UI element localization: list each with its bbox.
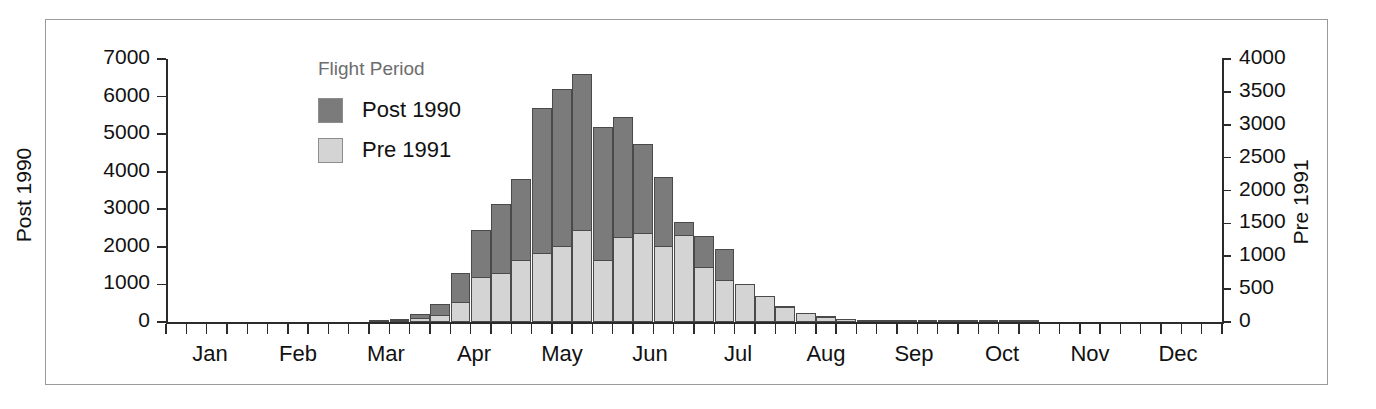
y-tick-left — [157, 133, 166, 135]
x-tick — [1059, 324, 1060, 334]
x-tick — [1120, 324, 1121, 334]
bar-pre1991 — [938, 320, 958, 322]
legend-title: Flight Period — [318, 58, 461, 80]
x-tick — [1201, 324, 1202, 334]
legend-item-post1990: Post 1990 — [318, 97, 461, 123]
x-tick — [307, 324, 308, 334]
x-tick — [1221, 324, 1222, 334]
bar-pre1991 — [816, 317, 836, 322]
x-tick — [632, 324, 633, 334]
bar-pre1991 — [451, 302, 471, 322]
bar-pre1991 — [694, 267, 714, 322]
figure-frame — [45, 19, 1328, 385]
x-tick — [754, 324, 755, 334]
bar-pre1991 — [511, 260, 531, 322]
y-tick-label-right: 3000 — [1239, 111, 1329, 135]
y-tick-right — [1222, 91, 1231, 93]
x-tick — [226, 324, 227, 334]
x-tick — [287, 324, 288, 334]
x-axis-month-label-apr: Apr — [429, 341, 519, 367]
x-axis-month-label-dec: Dec — [1133, 341, 1223, 367]
x-tick — [368, 324, 369, 334]
y-tick-right — [1222, 288, 1231, 290]
legend: Flight Period Post 1990 Pre 1991 — [318, 58, 461, 177]
bar-pre1991 — [552, 246, 572, 322]
x-tick — [1079, 324, 1080, 334]
y-tick-right — [1222, 321, 1231, 323]
bar-pre1991 — [796, 313, 816, 322]
y-axis-left-line — [166, 59, 168, 323]
bar-pre1991 — [674, 235, 694, 322]
x-tick — [511, 324, 512, 334]
x-tick — [835, 324, 836, 334]
x-axis-month-label-oct: Oct — [957, 341, 1047, 367]
y-tick-right — [1222, 255, 1231, 257]
y-tick-left — [157, 246, 166, 248]
y-tick-label-left: 6000 — [38, 83, 150, 107]
y-tick-left — [157, 171, 166, 173]
y-axis-left-title: Post 1990 — [12, 148, 36, 243]
y-tick-left — [157, 96, 166, 98]
x-axis-month-label-sep: Sep — [869, 341, 959, 367]
x-tick — [1099, 324, 1100, 334]
bar-pre1991 — [430, 315, 450, 322]
y-tick-right — [1222, 190, 1231, 192]
bar-post1990 — [1019, 320, 1039, 322]
x-tick — [450, 324, 451, 334]
x-tick — [693, 324, 694, 334]
bar-pre1991 — [897, 320, 917, 322]
x-tick — [409, 324, 410, 334]
x-tick — [815, 324, 816, 334]
y-tick-label-left: 1000 — [38, 270, 150, 294]
bar-pre1991 — [877, 320, 897, 322]
bar-pre1991 — [918, 320, 938, 322]
flight-period-chart: Post 1990 Pre 1991 010002000300040005000… — [0, 0, 1376, 409]
y-tick-left — [157, 321, 166, 323]
x-axis-month-label-mar: Mar — [341, 341, 431, 367]
y-tick-label-left: 7000 — [38, 45, 150, 69]
bar-pre1991 — [979, 320, 999, 322]
y-tick-label-right: 500 — [1239, 275, 1329, 299]
bar-pre1991 — [633, 233, 653, 322]
bar-pre1991 — [836, 319, 856, 322]
legend-label-post1990: Post 1990 — [362, 97, 461, 123]
bar-pre1991 — [471, 277, 491, 322]
x-tick — [734, 324, 735, 334]
x-tick — [531, 324, 532, 334]
x-tick — [957, 324, 958, 334]
bar-pre1991 — [613, 237, 633, 322]
x-tick — [1018, 324, 1019, 334]
legend-swatch-post1990 — [318, 98, 343, 123]
bar-pre1991 — [715, 280, 735, 322]
bar-pre1991 — [572, 230, 592, 322]
x-axis-month-label-may: May — [517, 341, 607, 367]
x-tick — [876, 324, 877, 334]
x-axis-month-label-jul: Jul — [693, 341, 783, 367]
y-tick-label-left: 4000 — [38, 158, 150, 182]
x-tick — [490, 324, 491, 334]
y-tick-label-right: 4000 — [1239, 45, 1329, 69]
y-tick-label-right: 0 — [1239, 308, 1329, 332]
bar-pre1991 — [999, 320, 1019, 322]
x-tick — [429, 324, 430, 334]
x-tick — [267, 324, 268, 334]
x-tick — [328, 324, 329, 334]
x-axis-line — [166, 322, 1224, 324]
x-tick — [470, 324, 471, 334]
y-tick-right — [1222, 58, 1231, 60]
y-tick-right — [1222, 157, 1231, 159]
x-tick — [653, 324, 654, 334]
x-tick — [389, 324, 390, 334]
bar-pre1991 — [654, 246, 674, 322]
x-tick — [165, 324, 166, 334]
x-tick — [571, 324, 572, 334]
legend-swatch-pre1991 — [318, 138, 343, 163]
x-axis-month-label-jun: Jun — [605, 341, 695, 367]
x-tick — [206, 324, 207, 334]
x-tick — [917, 324, 918, 334]
bar-pre1991 — [390, 320, 410, 322]
y-tick-label-right: 1500 — [1239, 209, 1329, 233]
bar-pre1991 — [593, 260, 613, 322]
x-tick — [998, 324, 999, 334]
x-tick — [612, 324, 613, 334]
